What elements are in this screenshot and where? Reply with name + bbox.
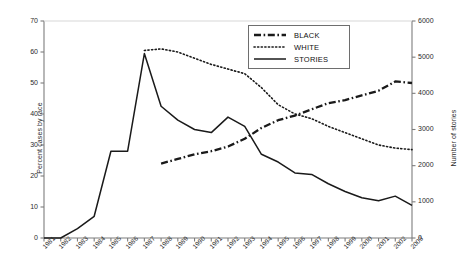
chart-legend: BLACK WHITE STORIES: [248, 25, 350, 69]
legend-label-white: WHITE: [294, 43, 319, 52]
legend-label-black: BLACK: [294, 31, 320, 40]
y-right-tick-4000: 4000: [418, 89, 434, 96]
y-left-tick-20: 20: [16, 172, 38, 179]
y-left-tick-10: 10: [16, 203, 38, 210]
y-left-tick-0: 0: [16, 234, 38, 241]
legend-item-black: BLACK: [253, 29, 344, 41]
chart-container: Percent cases by race Number of stories …: [0, 0, 458, 275]
y-left-tick-40: 40: [16, 110, 38, 117]
y-right-tick-1000: 1000: [418, 197, 434, 204]
y-left-tick-30: 30: [16, 141, 38, 148]
axis-lines: [44, 21, 412, 238]
legend-swatch-black: [253, 30, 287, 40]
series-lines: [44, 49, 412, 238]
y-right-tick-2000: 2000: [418, 161, 434, 168]
legend-swatch-stories: [253, 54, 287, 64]
y-right-tick-5000: 5000: [418, 53, 434, 60]
legend-label-stories: STORIES: [294, 55, 328, 64]
series-line-black: [161, 81, 412, 163]
legend-swatch-white: [253, 42, 287, 52]
y-right-tick-3000: 3000: [418, 125, 434, 132]
legend-item-white: WHITE: [253, 41, 344, 53]
y-right-tick-6000: 6000: [418, 17, 434, 24]
legend-item-stories: STORIES: [253, 53, 344, 65]
y-left-tick-60: 60: [16, 48, 38, 55]
y-axis-right-title: Number of stories: [450, 109, 457, 166]
y-left-tick-70: 70: [16, 17, 38, 24]
y-left-tick-50: 50: [16, 79, 38, 86]
chart-plot-area: [0, 0, 458, 275]
